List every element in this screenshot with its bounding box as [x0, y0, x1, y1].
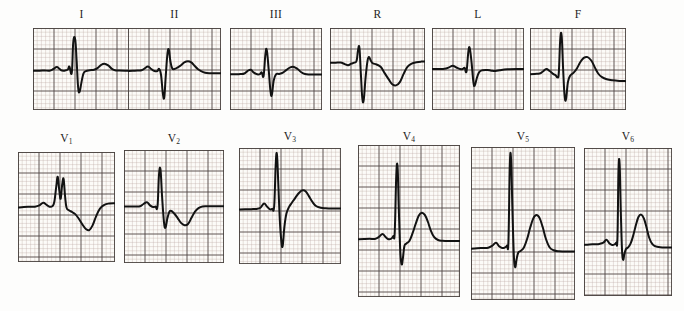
ecg-trace-box-lead-i: [33, 28, 130, 110]
ecg-trace-box-lead-l: [432, 28, 524, 110]
ecg-panel-lead-ii: II: [128, 8, 221, 110]
ecg-trace-box-lead-v4: [358, 145, 460, 297]
ecg-trace-box-lead-iii: [230, 28, 322, 110]
lead-label-lead-v2: V2: [124, 132, 224, 146]
lead-label-lead-v5: V5: [471, 130, 575, 144]
lead-label-text: R: [374, 8, 382, 20]
lead-label-text: V: [168, 132, 177, 144]
lead-label-text: L: [474, 8, 481, 20]
ecg-panel-lead-f: F: [530, 8, 626, 110]
ecg-panel-lead-i: I: [33, 8, 130, 110]
lead-label-text: V: [622, 130, 631, 142]
lead-label-text: F: [575, 8, 582, 20]
lead-label-text: III: [270, 8, 282, 20]
ecg-panel-lead-v6: V6: [584, 130, 672, 296]
lead-label-lead-v3: V3: [239, 130, 341, 144]
lead-label-lead-iii: III: [230, 8, 322, 21]
lead-label-lead-v1: V1: [18, 132, 115, 146]
ecg-trace-box-lead-v1: [18, 152, 115, 262]
lead-label-subscript: 1: [69, 137, 73, 146]
lead-label-subscript: 6: [630, 135, 634, 144]
lead-label-subscript: 3: [292, 135, 296, 144]
lead-label-lead-v6: V6: [584, 130, 672, 144]
lead-label-text: I: [79, 8, 83, 20]
ecg-panel-lead-v5: V5: [471, 130, 575, 300]
ecg-panel-lead-v3: V3: [239, 130, 341, 264]
lead-label-lead-r: R: [330, 8, 425, 21]
lead-label-lead-i: I: [33, 8, 130, 21]
lead-label-lead-f: F: [530, 8, 626, 21]
ecg-trace-box-lead-v2: [124, 150, 224, 263]
lead-label-subscript: 2: [176, 137, 180, 146]
ecg-trace-box-lead-v3: [239, 148, 341, 264]
lead-label-lead-ii: II: [128, 8, 221, 21]
lead-label-text: V: [403, 130, 412, 142]
ecg-trace-box-lead-r: [330, 28, 425, 110]
ecg-panel-lead-v1: V1: [18, 132, 115, 262]
ecg-panel-lead-iii: III: [230, 8, 322, 110]
lead-label-text: V: [284, 130, 293, 142]
lead-label-text: V: [517, 130, 526, 142]
ecg-trace-box-lead-v5: [471, 147, 575, 300]
ecg-sheet: IIIIIIRLFV1V2V3V4V5V6: [0, 0, 684, 311]
lead-label-subscript: 4: [411, 135, 415, 144]
ecg-panel-lead-v4: V4: [358, 130, 460, 297]
lead-label-text: V: [60, 132, 69, 144]
ecg-trace-box-lead-ii: [128, 28, 221, 110]
ecg-panel-lead-v2: V2: [124, 132, 224, 263]
ecg-panel-lead-r: R: [330, 8, 425, 110]
ecg-panel-lead-l: L: [432, 8, 524, 110]
lead-label-text: II: [170, 8, 178, 20]
lead-label-subscript: 5: [525, 135, 529, 144]
ecg-trace-box-lead-v6: [584, 148, 672, 296]
lead-label-lead-l: L: [432, 8, 524, 21]
ecg-trace-box-lead-f: [530, 28, 626, 110]
lead-label-lead-v4: V4: [358, 130, 460, 144]
